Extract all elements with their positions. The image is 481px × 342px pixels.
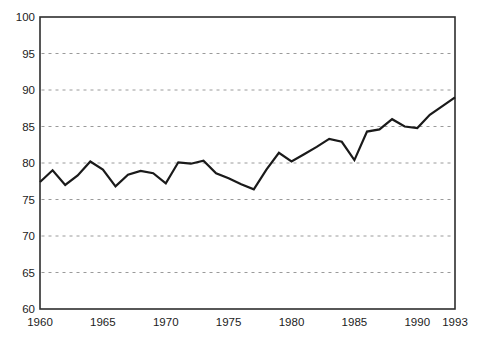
y-tick-label: 90 xyxy=(22,84,35,96)
x-tick-label: 1985 xyxy=(342,316,368,328)
y-tick-label: 65 xyxy=(22,267,35,279)
x-tick-label: 1970 xyxy=(153,316,179,328)
y-tick-label: 60 xyxy=(22,303,35,315)
y-tick-label: 80 xyxy=(22,157,35,169)
chart-svg: 6065707580859095100 19601965197019751980… xyxy=(0,0,481,342)
gridlines-group xyxy=(42,54,455,273)
y-tick-label: 85 xyxy=(22,121,35,133)
y-tick-label: 75 xyxy=(22,194,35,206)
x-tick-label: 1990 xyxy=(404,316,430,328)
data-series-line xyxy=(40,97,455,189)
x-tick-label: 1993 xyxy=(442,316,468,328)
y-tick-label: 95 xyxy=(22,48,35,60)
y-axis-labels-group: 6065707580859095100 xyxy=(16,11,35,315)
x-tick-label: 1960 xyxy=(27,316,53,328)
y-tick-label: 100 xyxy=(16,11,35,23)
x-tick-label: 1975 xyxy=(216,316,242,328)
line-chart-figure: 6065707580859095100 19601965197019751980… xyxy=(0,0,481,342)
x-tick-label: 1980 xyxy=(279,316,305,328)
x-axis-labels-group: 19601965197019751980198519901993 xyxy=(27,316,468,328)
series-group xyxy=(40,97,455,189)
x-tick-label: 1965 xyxy=(90,316,116,328)
y-tick-label: 70 xyxy=(22,230,35,242)
